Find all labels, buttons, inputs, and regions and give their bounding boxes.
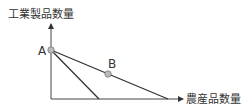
point-a-label: A <box>38 45 46 57</box>
steep-line <box>51 50 99 99</box>
x-axis-label: 農産品数量 <box>186 94 241 105</box>
y-axis-label: 工業製品数量 <box>8 9 74 20</box>
point-b-marker <box>105 71 111 77</box>
point-a-marker <box>48 47 54 53</box>
point-b-label: B <box>108 58 116 70</box>
